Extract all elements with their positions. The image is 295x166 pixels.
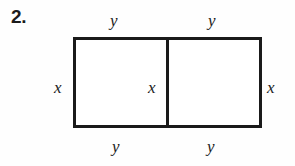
label-bottom-left-y: y [112,138,120,155]
problem-number: 2. [11,6,26,28]
label-left-side-x: x [54,79,62,96]
label-bottom-right-y: y [207,138,215,155]
label-middle-divider-x: x [148,79,156,96]
label-right-side-x: x [267,79,275,96]
figure-canvas: 2. y y x x x y y [0,0,295,166]
label-top-left-y: y [110,12,118,29]
label-top-right-y: y [208,12,216,29]
vertical-divider-line [166,37,169,128]
